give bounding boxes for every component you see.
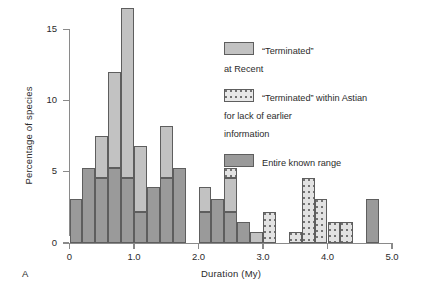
legend-swatch-astian-icon bbox=[224, 89, 254, 102]
legend-swatch-entire-icon bbox=[224, 154, 254, 167]
bar-segment bbox=[250, 232, 263, 243]
bar-segment bbox=[134, 146, 147, 211]
bar-segment bbox=[173, 168, 186, 243]
bar-segment bbox=[121, 178, 134, 243]
legend-item-astian: “Terminated” within Astian for lack of e… bbox=[224, 87, 420, 141]
legend-item-entire: Entire known range bbox=[224, 152, 420, 172]
bar-segment bbox=[199, 212, 212, 243]
bar-segment bbox=[147, 187, 160, 243]
bar-segment bbox=[237, 222, 250, 243]
bar-segment bbox=[108, 72, 121, 167]
bar-segment bbox=[95, 178, 108, 243]
legend-swatch-recent-icon bbox=[224, 42, 254, 55]
bar-segment bbox=[289, 232, 302, 243]
legend: “Terminated” at Recent “Terminated” with… bbox=[224, 40, 420, 183]
bar-segment bbox=[82, 168, 95, 243]
bar-segment bbox=[263, 212, 276, 243]
bar-segment bbox=[224, 212, 237, 243]
bar-segment bbox=[70, 199, 83, 243]
bar-segment bbox=[199, 187, 212, 211]
bar-segment bbox=[366, 199, 379, 243]
histogram-figure: 051015 01.02.03.04.05.0 Percentage of sp… bbox=[0, 0, 421, 301]
legend-item-recent: “Terminated” at Recent bbox=[224, 40, 420, 76]
bar-segment bbox=[134, 212, 147, 243]
bar-segment bbox=[95, 136, 108, 177]
bar-segment bbox=[315, 199, 328, 243]
bar-segment bbox=[160, 178, 173, 243]
bar-segment bbox=[121, 8, 134, 177]
bar-segment bbox=[340, 222, 353, 243]
bar-segment bbox=[211, 199, 224, 243]
bar-segment bbox=[328, 222, 341, 243]
bar-segment bbox=[302, 178, 315, 243]
bar-segment bbox=[160, 126, 173, 177]
bar-segment bbox=[108, 168, 121, 243]
legend-label-entire: Entire known range bbox=[262, 158, 341, 168]
